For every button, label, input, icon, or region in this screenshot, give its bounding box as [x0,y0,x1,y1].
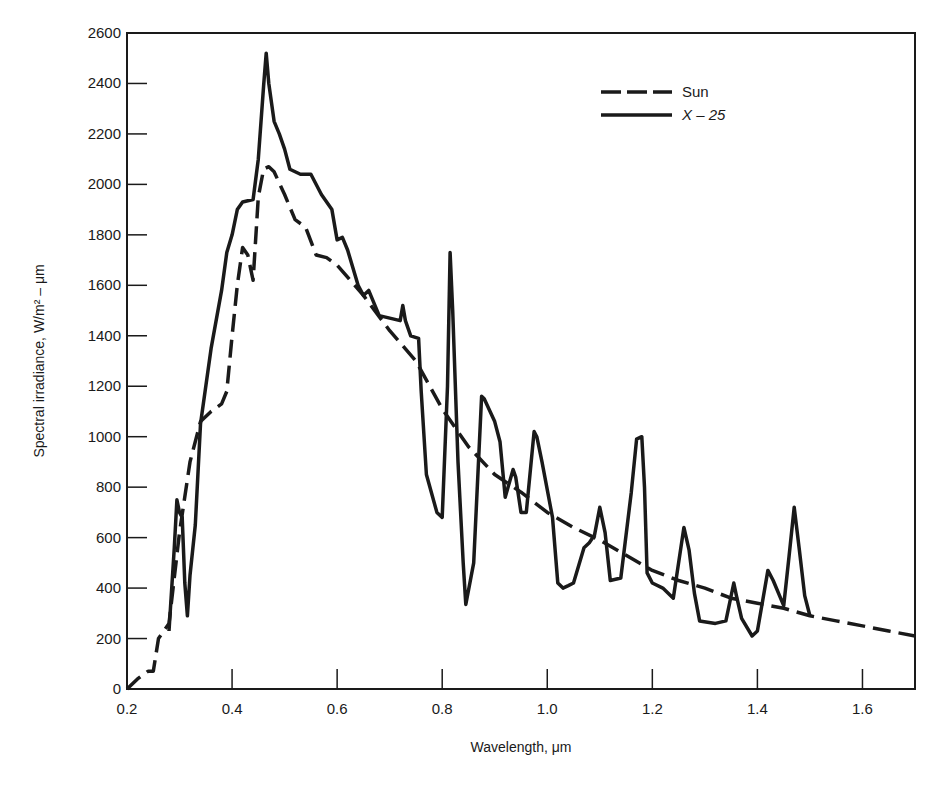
y-axis: 0200400600800100012001400160018002000220… [88,24,147,697]
y-tick-label: 1800 [88,226,121,243]
y-tick-label: 600 [96,529,121,546]
x-axis: 0.20.40.60.81.01.21.41.6 [117,669,873,717]
y-axis-label: Spectral irradiance, W/m² – μm [31,264,47,457]
y-tick-label: 2200 [88,125,121,142]
plot-frame [127,33,915,689]
x-axis-label: Wavelength, μm [471,739,572,755]
x-tick-label: 1.4 [747,700,768,717]
x-tick-label: 1.2 [642,700,663,717]
y-tick-label: 800 [96,478,121,495]
y-tick-label: 2400 [88,74,121,91]
series-sun-line [127,167,915,689]
x-tick-label: 1.6 [852,700,873,717]
x-tick-label: 0.6 [327,700,348,717]
y-tick-label: 1200 [88,377,121,394]
series-layer [127,53,915,689]
x-tick-label: 0.2 [117,700,138,717]
x-tick-label: 1.0 [537,700,558,717]
y-tick-label: 1400 [88,327,121,344]
legend-label: Sun [682,83,709,100]
y-tick-label: 400 [96,579,121,596]
series-x25-line [169,53,810,636]
y-tick-label: 2600 [88,24,121,41]
legend-label: X – 25 [681,106,726,123]
y-tick-label: 1600 [88,276,121,293]
spectral-irradiance-chart: 0200400600800100012001400160018002000220… [0,0,942,787]
y-tick-label: 1000 [88,428,121,445]
y-tick-label: 200 [96,630,121,647]
y-tick-label: 0 [113,680,121,697]
x-tick-label: 0.4 [222,700,243,717]
plot-border [127,33,915,689]
legend: SunX – 25 [601,83,726,123]
y-tick-label: 2000 [88,175,121,192]
x-tick-label: 0.8 [432,700,453,717]
